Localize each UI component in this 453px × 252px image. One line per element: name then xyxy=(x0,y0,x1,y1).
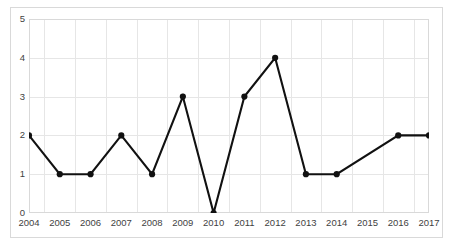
data-point-marker xyxy=(426,132,429,138)
y-axis-tick-label: 2 xyxy=(11,130,25,140)
x-axis-tick-label: 2017 xyxy=(418,217,439,229)
x-axis-tick-label: 2016 xyxy=(388,217,409,229)
x-axis-tick-label: 2014 xyxy=(326,217,347,229)
data-point-marker xyxy=(87,171,93,177)
y-axis-tick-label: 4 xyxy=(11,53,25,63)
plot-area xyxy=(29,19,429,213)
data-point-marker xyxy=(211,210,217,213)
data-point-marker xyxy=(334,171,340,177)
data-point-marker xyxy=(395,132,401,138)
x-axis-tick-label: 2011 xyxy=(234,217,254,229)
x-axis-tick-label: 2004 xyxy=(18,217,39,229)
x-axis-tick-label: 2008 xyxy=(141,217,162,229)
x-axis-tick-label: 2012 xyxy=(265,217,286,229)
data-point-marker xyxy=(241,94,247,100)
vertical-gridlines xyxy=(45,19,415,213)
data-point-marker xyxy=(180,94,186,100)
x-axis-tick-label: 2007 xyxy=(111,217,132,229)
x-axis-tick-label: 2006 xyxy=(80,217,101,229)
data-point-marker xyxy=(303,171,309,177)
x-axis-tick-label: 2005 xyxy=(49,217,70,229)
x-axis-tick-label: 2013 xyxy=(295,217,316,229)
y-axis-tick-label: 3 xyxy=(11,92,25,102)
y-axis-tick-label: 5 xyxy=(11,14,25,24)
x-axis-tick-label: 2009 xyxy=(172,217,193,229)
data-point-marker xyxy=(149,171,155,177)
chart-frame: 012345 200420052006200720082009201020112… xyxy=(10,7,443,238)
x-axis-tick-label: 2015 xyxy=(357,217,378,229)
y-axis-tick-labels: 012345 xyxy=(11,8,25,213)
data-point-marker xyxy=(118,132,124,138)
data-point-marker xyxy=(57,171,63,177)
x-axis-tick-labels: 2004200520062007200820092010201120122013… xyxy=(29,217,429,233)
x-axis-tick-label: 2010 xyxy=(203,217,224,229)
y-axis-tick-label: 1 xyxy=(11,169,25,179)
data-point-marker xyxy=(272,55,278,61)
line-chart-plot xyxy=(29,19,429,213)
